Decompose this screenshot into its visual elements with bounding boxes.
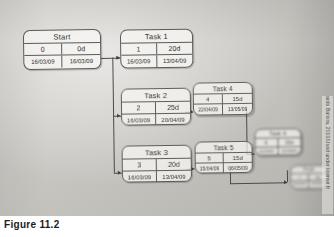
node-task2-duration: 25d bbox=[156, 102, 190, 113]
node-task6[interactable]: Task 6 6 15d 15/05/09 05/06/09 bbox=[254, 128, 301, 156]
node-task6-duration: 15d bbox=[278, 138, 301, 146]
node-task4-duration: 15d bbox=[223, 94, 252, 103]
node-final-id: 7 bbox=[291, 174, 309, 180]
connector-task6-down bbox=[287, 170, 288, 182]
node-task4[interactable]: Task 4 4 15d 22/04/09 13/05/09 bbox=[193, 82, 253, 116]
node-task5[interactable]: Task 5 5 15d 15/04/09 06/05/09 bbox=[194, 141, 252, 174]
node-task1-row-top: 1 20d bbox=[121, 43, 192, 56]
node-task2-row-top: 2 25d bbox=[122, 102, 190, 115]
node-task3-start-date: 16/03/09 bbox=[123, 171, 157, 182]
node-task4-id: 4 bbox=[194, 94, 223, 103]
node-start-duration: 0d bbox=[62, 43, 100, 55]
network-diagram: Start 0 0d 16/03/09 16/03/09 Task 1 1 20… bbox=[0, 0, 334, 218]
node-task3-duration: 20d bbox=[157, 159, 191, 170]
node-start-row-top: 0 0d bbox=[24, 43, 100, 56]
node-task2[interactable]: Task 2 2 25d 16/03/09 20/04/09 bbox=[121, 88, 192, 126]
node-task1-duration: 20d bbox=[157, 43, 193, 54]
node-task2-row-bottom: 16/03/09 20/04/09 bbox=[122, 114, 190, 126]
node-task1-row-bottom: 16/03/09 13/04/09 bbox=[121, 55, 192, 68]
node-task4-finish-date: 13/05/09 bbox=[223, 104, 252, 114]
node-start-id: 0 bbox=[24, 43, 62, 55]
node-task2-start-date: 16/03/09 bbox=[122, 114, 156, 125]
node-task6-start-date: 15/05/09 bbox=[256, 147, 279, 156]
image-attribution-credit: ardo Batista, 2010/Used under license fr bbox=[322, 96, 333, 214]
node-task5-title: Task 5 bbox=[195, 142, 251, 154]
node-task2-finish-date: 20/04/09 bbox=[156, 114, 190, 126]
node-task5-id: 5 bbox=[196, 153, 224, 162]
arrowhead-task3 bbox=[118, 171, 121, 175]
node-task6-row-bottom: 15/05/09 05/06/09 bbox=[256, 147, 301, 156]
node-start-title: Start bbox=[24, 30, 100, 44]
node-final-start-date: 05/06/09 bbox=[291, 181, 309, 188]
node-task3-finish-date: 13/04/09 bbox=[157, 171, 191, 183]
arrowhead-task2 bbox=[117, 114, 120, 118]
node-task1-id: 1 bbox=[121, 43, 157, 54]
figure-screenshot: Start 0 0d 16/03/09 16/03/09 Task 1 1 20… bbox=[0, 0, 334, 237]
node-task5-finish-date: 06/05/09 bbox=[224, 163, 252, 173]
node-task3-id: 3 bbox=[123, 159, 157, 170]
node-task3-title: Task 3 bbox=[123, 146, 191, 160]
node-task4-start-date: 22/04/09 bbox=[194, 104, 223, 114]
node-task3[interactable]: Task 3 3 20d 16/03/09 13/04/09 bbox=[122, 145, 193, 183]
node-task1-title: Task 1 bbox=[121, 30, 192, 44]
node-start-finish-date: 16/03/09 bbox=[62, 55, 100, 68]
node-task4-row-bottom: 22/04/09 13/05/09 bbox=[194, 104, 252, 115]
node-task1-start-date: 16/03/09 bbox=[121, 55, 157, 67]
node-task3-row-bottom: 16/03/09 13/04/09 bbox=[123, 171, 191, 183]
node-start[interactable]: Start 0 0d 16/03/09 16/03/09 bbox=[23, 29, 102, 70]
node-task3-row-top: 3 20d bbox=[123, 159, 191, 172]
node-task4-title: Task 4 bbox=[194, 83, 252, 95]
node-task1[interactable]: Task 1 1 20d 16/03/09 13/04/09 bbox=[120, 29, 194, 69]
arrowhead-final bbox=[284, 180, 287, 184]
node-task6-id: 6 bbox=[255, 138, 278, 146]
node-task6-finish-date: 05/06/09 bbox=[278, 147, 301, 156]
node-task5-duration: 15d bbox=[224, 153, 252, 162]
node-task5-start-date: 15/04/09 bbox=[196, 163, 224, 173]
node-task2-id: 2 bbox=[122, 102, 156, 113]
figure-caption: Figure 11.2 bbox=[4, 219, 60, 230]
node-task2-title: Task 2 bbox=[122, 89, 190, 103]
node-start-row-bottom: 16/03/09 16/03/09 bbox=[24, 55, 100, 68]
node-task1-finish-date: 13/04/09 bbox=[157, 55, 193, 67]
node-start-start-date: 16/03/09 bbox=[24, 55, 62, 68]
node-task5-row-bottom: 15/04/09 06/05/09 bbox=[196, 163, 252, 174]
connector-task5-to-final bbox=[230, 182, 287, 184]
